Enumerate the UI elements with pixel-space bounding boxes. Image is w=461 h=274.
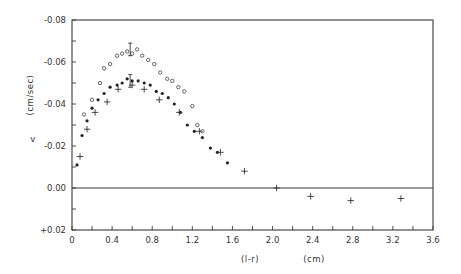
x-axis-label: (l-r) [241,254,259,264]
open-circle-point [177,86,180,89]
filled-dot-point [209,147,212,150]
cross-point [196,128,202,134]
cross-point [92,109,98,115]
open-circle-point [166,77,169,80]
filled-dot-point [75,163,78,166]
x-tick-label: 1.6 [226,235,240,245]
x-tick-label: 0.4 [105,235,119,245]
open-circle-point [159,71,162,74]
x-tick-label: 0.8 [145,235,159,245]
open-circle-point [108,62,111,65]
filled-dot-point [121,81,124,84]
filled-dot-point [80,134,83,137]
y-tick-label: +0.02 [40,225,66,235]
open-circle-point [183,90,186,93]
open-circle-point [120,52,123,55]
y-tick-label: -0.04 [44,99,66,109]
cross-point [217,149,223,155]
filled-dot-point [155,90,158,93]
open-circle-point [153,62,156,65]
cross-point [241,168,247,174]
x-tick-label: 0 [69,235,74,245]
cross-point [398,195,404,201]
cross-point [77,153,83,159]
open-circle-point [147,58,150,61]
y-axis-units: (cm/sec) [25,75,35,116]
filled-dot-point [143,81,146,84]
y-tick-labels: -0.08-0.06-0.04-0.020.00+0.02 [40,15,66,235]
x-tick-label: 3.6 [426,235,440,245]
filled-dot-point [85,119,88,122]
y-axis-label: v [30,134,36,144]
open-circle-point [115,54,118,57]
data-points [75,48,404,204]
filled-dot-point [102,92,105,95]
filled-dot-point [201,136,204,139]
filled-dot-point [167,96,170,99]
cross-point [273,185,279,191]
filled-dot-point [137,79,140,82]
x-tick-label: 3.2 [386,235,400,245]
cross-point [307,193,313,199]
open-circle-point [140,54,143,57]
open-circle-point [196,123,199,126]
y-tick-label: -0.08 [44,15,66,25]
filled-dot-point [96,98,99,101]
y-tick-label: -0.06 [44,57,66,67]
open-circle-point [82,113,85,116]
open-circle-point [125,50,128,53]
y-tick-label: 0.00 [47,183,66,193]
open-circle-point [135,48,138,51]
filled-dot-point [161,92,164,95]
x-tick-label: 1.2 [186,235,200,245]
chart: -0.08-0.06-0.04-0.020.00+0.02 00.40.81.2… [0,0,461,274]
open-circle-point [191,104,194,107]
cross-point [115,86,121,92]
cross-point [104,99,110,105]
filled-dot-point [173,102,176,105]
x-tick-labels: 00.40.81.21.62.02.42.83.23.6 [69,235,439,245]
open-circle-point [98,81,101,84]
x-tick-label: 2.4 [306,235,320,245]
filled-dot-point [126,77,129,80]
open-circle-point [130,52,133,55]
x-axis-units: (cm) [303,254,325,264]
cross-point [176,109,182,115]
filled-dot-point [193,130,196,133]
cross-point [84,126,90,132]
y-tick-label: -0.02 [44,141,66,151]
filled-dot-point [186,123,189,126]
cross-point [348,197,354,203]
open-circle-point [171,79,174,82]
open-circle-point [102,67,105,70]
filled-dot-point [90,107,93,110]
x-tick-label: 2.0 [266,235,280,245]
filled-dot-point [109,86,112,89]
x-tick-label: 2.8 [346,235,360,245]
cross-point [141,86,147,92]
filled-dot-point [226,161,229,164]
cross-point [156,97,162,103]
open-circle-point [90,98,93,101]
filled-dot-point [149,84,152,87]
